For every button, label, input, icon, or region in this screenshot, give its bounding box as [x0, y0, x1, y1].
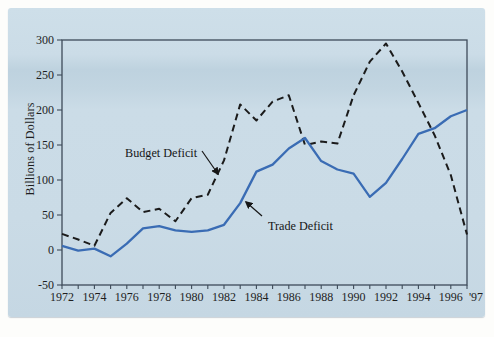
- x-tick-label: 1988: [309, 290, 333, 304]
- x-tick-label: 1992: [374, 290, 398, 304]
- deficit-line-chart: -500501001502002503001972197419761978198…: [8, 8, 485, 317]
- x-tick-label: 1986: [277, 290, 301, 304]
- budget-deficit-arrow: [202, 151, 218, 174]
- x-tick-label: 1972: [50, 290, 74, 304]
- x-tick-label: 1984: [244, 290, 268, 304]
- x-tick-label: 1982: [212, 290, 236, 304]
- x-tick-label: 1976: [115, 290, 139, 304]
- trade-deficit-line: [62, 110, 467, 256]
- budget-deficit-label: Budget Deficit: [125, 146, 197, 161]
- trade-deficit-label: Trade Deficit: [268, 219, 333, 234]
- chart-panel: -500501001502002503001972197419761978198…: [8, 8, 485, 317]
- trade-deficit-arrow: [246, 202, 262, 216]
- x-tick-label: 1974: [82, 290, 106, 304]
- x-tick-label: 1980: [180, 290, 204, 304]
- y-tick-label: 300: [36, 33, 54, 47]
- x-tick-label: 1978: [147, 290, 171, 304]
- x-tick-label: 1990: [342, 290, 366, 304]
- y-axis-title: Billions of Dollars: [23, 89, 39, 209]
- budget-deficit-line: [62, 44, 467, 246]
- y-tick-label: 250: [36, 68, 54, 82]
- y-tick-label: 0: [48, 243, 54, 257]
- x-tick-label: '97: [469, 290, 483, 304]
- x-tick-label: 1994: [406, 290, 430, 304]
- x-tick-label: 1996: [439, 290, 463, 304]
- y-tick-label: 50: [42, 208, 54, 222]
